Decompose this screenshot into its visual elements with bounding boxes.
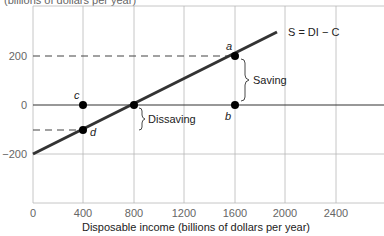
label-c: c: [74, 89, 80, 101]
label-a: a: [226, 40, 232, 52]
x-tick-2400: 2400: [324, 207, 348, 219]
point-d: [79, 126, 87, 134]
point-breakeven: [130, 101, 138, 109]
line-equation-label: S = DI − C: [288, 26, 339, 38]
point-b: [231, 101, 239, 109]
saving-function-chart: (billions of dollars per year) a b c d S…: [0, 0, 384, 236]
x-axis-label: Disposable income (billions of dollars p…: [82, 221, 310, 233]
x-tick-1200: 1200: [172, 207, 196, 219]
x-tick-0: 0: [30, 207, 36, 219]
dissaving-label: Dissaving: [148, 113, 196, 125]
y-tick-neg200: −200: [2, 148, 27, 160]
dissaving-brace: [139, 108, 145, 130]
point-c: [79, 101, 87, 109]
label-b: b: [225, 110, 231, 122]
x-tick-1600: 1600: [223, 207, 247, 219]
y-tick-0: 0: [21, 99, 27, 111]
saving-label: Saving: [253, 74, 287, 86]
label-d: d: [90, 126, 97, 138]
y-tick-200: 200: [9, 50, 27, 62]
y-axis-label: (billions of dollars per year): [4, 0, 136, 6]
x-tick-2000: 2000: [273, 207, 297, 219]
x-tick-800: 800: [125, 207, 143, 219]
saving-line: [33, 32, 277, 154]
x-tick-400: 400: [74, 207, 92, 219]
saving-brace: [241, 59, 249, 101]
point-a: [231, 52, 239, 60]
